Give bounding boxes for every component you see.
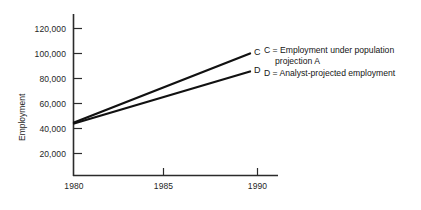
legend-entry-c-continuation: projection A <box>264 56 395 67</box>
y-tick-label-100000: 100,000 <box>10 49 66 59</box>
legend-entry-d-line1: D = Analyst-projected employment <box>264 68 395 78</box>
y-tick-label-80000: 80,000 <box>10 74 66 84</box>
y-tick-label-40000: 40,000 <box>10 124 66 134</box>
y-axis-ticks <box>74 29 82 154</box>
x-tick-label-1990: 1990 <box>248 181 267 191</box>
employment-projection-chart: Employment 120,000 100,000 80,000 60,000… <box>0 0 421 210</box>
x-tick-label-1985: 1985 <box>154 181 173 191</box>
x-tick-label-1980: 1980 <box>64 181 83 191</box>
series-line-c <box>74 54 250 123</box>
legend-entry-c: C = Employment under population <box>264 45 395 56</box>
series-line-d <box>74 72 250 124</box>
chart-legend: C = Employment under population projecti… <box>264 45 395 79</box>
y-tick-label-20000: 20,000 <box>10 149 66 159</box>
series-end-label-c: C <box>254 47 261 57</box>
series-end-label-d: D <box>254 65 261 75</box>
legend-entry-c-line2: projection A <box>275 56 320 66</box>
y-tick-label-120000: 120,000 <box>10 24 66 34</box>
x-axis-ticks <box>164 168 258 175</box>
legend-entry-d: D = Analyst-projected employment <box>264 68 395 79</box>
y-tick-label-60000: 60,000 <box>10 99 66 109</box>
legend-entry-c-line1: C = Employment under population <box>264 45 394 55</box>
